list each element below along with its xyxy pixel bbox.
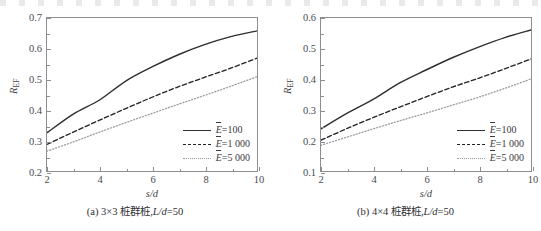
x-tick-label: 10 [254, 175, 265, 186]
x-tick-label: 2 [318, 175, 323, 186]
legend-item-e1000: E=1 000 [183, 138, 250, 149]
y-tick-label: 0.4 [29, 106, 42, 117]
legend-label-e1000: E=1 000 [216, 138, 250, 149]
caption-a: (a) 3×3 桩群桩,L/d=50 [0, 203, 270, 218]
y-tick [47, 142, 51, 143]
x-tick-label: 4 [97, 175, 102, 186]
legend-key-solid-icon [183, 126, 211, 134]
y-tick-label: 0.2 [29, 168, 42, 179]
legend-key-solid-icon [457, 126, 485, 134]
y-tick-minor [321, 96, 324, 97]
figure-two-panel-chart: 0.20.30.40.50.60.7246810 E=100 E=1 000 E… [0, 0, 541, 231]
curve-solid [47, 31, 257, 133]
y-tick-label: 0.1 [303, 168, 316, 179]
legend-label-e1000: E=1 000 [490, 138, 524, 149]
x-axis-title-a: s/d [46, 188, 258, 199]
y-tick-minor [321, 65, 324, 66]
y-tick [47, 18, 51, 19]
x-tick-minor [233, 169, 234, 172]
y-tick-label: 0.3 [29, 137, 42, 148]
x-tick [427, 167, 428, 171]
y-tick [47, 111, 51, 112]
x-tick-label: 10 [528, 175, 539, 186]
plot-area-a: 0.20.30.40.50.60.7246810 E=100 E=1 000 E… [46, 17, 258, 172]
y-tick-minor [47, 158, 50, 159]
legend-key-dashed-icon [183, 140, 211, 148]
y-tick-minor [47, 127, 50, 128]
x-tick-minor [180, 169, 181, 172]
legend-item-e5000: E=5 000 [457, 152, 524, 163]
x-tick [533, 167, 534, 171]
y-tick-minor [321, 158, 324, 159]
legend-a: E=100 E=1 000 E=5 000 [181, 123, 251, 164]
x-tick-label: 6 [424, 175, 429, 186]
y-tick-label: 0.6 [29, 44, 42, 55]
legend-key-dashed-icon [457, 140, 485, 148]
legend-label-e100: E=100 [490, 124, 517, 135]
legend-item-e5000: E=5 000 [183, 152, 250, 163]
x-tick-minor [348, 169, 349, 172]
legend-key-dotted-icon [183, 154, 211, 162]
chart-panel-b: 0.10.20.30.40.50.6246810 E=100 E=1 000 E… [270, 0, 541, 231]
curve-solid [321, 30, 531, 129]
legend-label-e5000: E=5 000 [216, 152, 250, 163]
x-tick [47, 167, 48, 171]
legend-item-e1000: E=1 000 [457, 138, 524, 149]
y-tick-minor [321, 127, 324, 128]
y-tick-minor [47, 96, 50, 97]
y-tick [321, 142, 325, 143]
x-tick-minor [454, 169, 455, 172]
legend-b: E=100 E=1 000 E=5 000 [455, 123, 525, 164]
legend-item-e100: E=100 [457, 124, 524, 135]
x-tick [100, 167, 101, 171]
y-tick [321, 80, 325, 81]
legend-key-dotted-icon [457, 154, 485, 162]
y-tick-label: 0.6 [303, 13, 316, 24]
y-axis-title-b: REF [282, 78, 295, 94]
x-tick-minor [74, 169, 75, 172]
y-tick-minor [47, 34, 50, 35]
y-tick [321, 49, 325, 50]
y-axis-title-a: REF [8, 78, 21, 94]
legend-label-e100: E=100 [216, 124, 243, 135]
x-tick-label: 8 [477, 175, 482, 186]
x-tick [259, 167, 260, 171]
x-axis-title-b: s/d [320, 188, 532, 199]
y-tick [47, 49, 51, 50]
y-tick-label: 0.5 [303, 44, 316, 55]
y-tick [321, 111, 325, 112]
y-tick-minor [321, 34, 324, 35]
x-tick-label: 8 [203, 175, 208, 186]
legend-item-e100: E=100 [183, 124, 250, 135]
x-tick-minor [507, 169, 508, 172]
y-tick-label: 0.3 [303, 106, 316, 117]
x-tick-label: 2 [44, 175, 49, 186]
x-tick [480, 167, 481, 171]
y-tick [321, 18, 325, 19]
y-tick-label: 0.7 [29, 13, 42, 24]
x-tick-minor [127, 169, 128, 172]
x-tick [153, 167, 154, 171]
legend-label-e5000: E=5 000 [490, 152, 524, 163]
y-tick-label: 0.4 [303, 75, 316, 86]
x-tick-minor [401, 169, 402, 172]
x-tick [374, 167, 375, 171]
x-tick-label: 6 [150, 175, 155, 186]
x-tick-label: 4 [371, 175, 376, 186]
y-tick-label: 0.2 [303, 137, 316, 148]
caption-b: (b) 4×4 桩群桩,L/d=50 [270, 203, 541, 218]
x-tick [206, 167, 207, 171]
plot-area-b: 0.10.20.30.40.50.6246810 E=100 E=1 000 E… [320, 17, 532, 172]
y-tick-label: 0.5 [29, 75, 42, 86]
chart-panel-a: 0.20.30.40.50.60.7246810 E=100 E=1 000 E… [0, 0, 270, 231]
x-tick [321, 167, 322, 171]
y-tick [47, 80, 51, 81]
y-tick-minor [47, 65, 50, 66]
